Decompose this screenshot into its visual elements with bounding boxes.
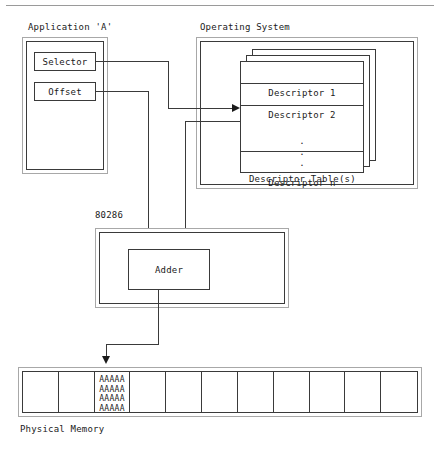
descriptor-table-sheet-1: Descriptor 1 Descriptor 2 . . . Descript… [240, 61, 364, 173]
descriptor-row-2[interactable]: Descriptor 2 [241, 84, 363, 106]
physical-memory-container: AAAAA AAAAA AAAAA AAAAA [18, 367, 422, 417]
memory-cell[interactable] [238, 372, 274, 412]
adder-to-memory-arrowhead [102, 356, 110, 364]
offset-label: Offset [35, 87, 95, 97]
application-title: Application 'A' [28, 22, 112, 33]
memory-cell[interactable] [345, 372, 381, 412]
selector-to-table-segment-v [168, 61, 169, 108]
diagram-canvas: Application 'A' Selector Offset Operatin… [0, 0, 440, 451]
offset-to-adder-segment-v [148, 91, 149, 231]
memory-cell[interactable] [202, 372, 238, 412]
selector-to-table-segment-h1 [96, 61, 168, 62]
physical-memory-title: Physical Memory [20, 424, 104, 435]
physical-memory-container-inner: AAAAA AAAAA AAAAA AAAAA [22, 371, 418, 413]
memory-cell[interactable] [23, 372, 59, 412]
operating-system-title: Operating System [200, 22, 290, 33]
top-divider-rule [6, 5, 434, 6]
descriptor-to-adder-segment-h [185, 121, 240, 122]
selector-to-descriptor-arrowhead [232, 104, 240, 112]
selector-label: Selector [35, 57, 95, 67]
memory-cell-strip: AAAAA AAAAA AAAAA AAAAA [23, 372, 417, 412]
adder-box[interactable]: Adder [128, 249, 210, 290]
selector-box[interactable]: Selector [34, 52, 96, 71]
adder-to-memory-segment-h [106, 344, 159, 345]
selector-to-table-segment-h2 [168, 108, 232, 109]
cpu-title: 80286 [95, 210, 123, 221]
memory-cell[interactable] [59, 372, 95, 412]
offset-box[interactable]: Offset [34, 82, 96, 101]
descriptor-row-ellipsis: . . . [241, 106, 363, 152]
adder-to-memory-segment-v1 [158, 290, 159, 344]
adder-label: Adder [129, 265, 209, 275]
memory-cell[interactable] [381, 372, 417, 412]
memory-cell-filled[interactable]: AAAAA AAAAA AAAAA AAAAA [95, 372, 131, 412]
memory-cell[interactable] [310, 372, 346, 412]
memory-cell[interactable] [130, 372, 166, 412]
memory-cell[interactable] [166, 372, 202, 412]
descriptor-row-n[interactable]: Descriptor n [241, 152, 363, 174]
descriptor-row-1[interactable]: Descriptor 1 [241, 62, 363, 84]
offset-to-adder-segment-h [96, 91, 148, 92]
memory-cell[interactable] [274, 372, 310, 412]
descriptor-table-caption: Descriptor Table(s) [249, 174, 356, 185]
descriptor-to-adder-segment-v [185, 121, 186, 231]
